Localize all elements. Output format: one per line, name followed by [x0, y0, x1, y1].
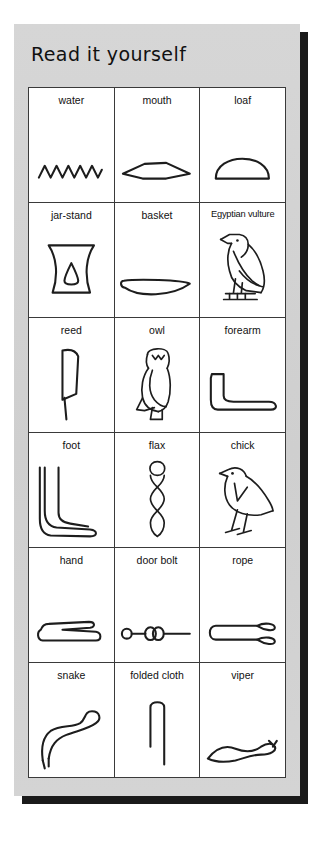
- glyph-cell-owl[interactable]: owl: [114, 318, 200, 433]
- glyph-label: snake: [29, 669, 114, 681]
- glyph-cell-forearm[interactable]: forearm: [200, 318, 286, 433]
- glyph-cell-water[interactable]: water: [29, 88, 115, 203]
- hand-glyph-icon: [29, 568, 114, 660]
- glyph-label: water: [29, 94, 114, 106]
- glyph-cell-folded-cloth[interactable]: folded cloth: [114, 663, 200, 778]
- glyph-label: jar-stand: [29, 209, 114, 221]
- glyph-cell-chick[interactable]: chick: [200, 433, 286, 548]
- glyph-label: flax: [115, 439, 200, 451]
- hieroglyph-table: water mouth: [28, 87, 286, 778]
- glyph-cell-rope[interactable]: rope: [200, 548, 286, 663]
- glyph-label: forearm: [200, 324, 285, 336]
- glyph-cell-hand[interactable]: hand: [29, 548, 115, 663]
- flax-twisted-wick-glyph-icon: [115, 453, 200, 545]
- glyph-label: basket: [115, 209, 200, 221]
- glyph-label: door bolt: [115, 554, 200, 566]
- glyph-label: reed: [29, 324, 114, 336]
- glyph-label: chick: [200, 439, 285, 451]
- table-row: foot flax: [29, 433, 286, 548]
- glyph-cell-snake[interactable]: snake: [29, 663, 115, 778]
- foot-glyph-icon: [29, 453, 114, 545]
- basket-glyph-icon: [115, 223, 200, 315]
- glyph-cell-basket[interactable]: basket: [114, 203, 200, 318]
- owl-glyph-icon: [115, 338, 200, 430]
- glyph-label: foot: [29, 439, 114, 451]
- table-row: reed owl: [29, 318, 286, 433]
- glyph-cell-jar-stand[interactable]: jar-stand: [29, 203, 115, 318]
- egyptian-vulture-glyph-icon: [200, 223, 285, 315]
- glyph-label: rope: [200, 554, 285, 566]
- loaf-semicircle-glyph-icon: [200, 108, 285, 200]
- glyph-cell-viper[interactable]: viper: [200, 663, 286, 778]
- mouth-lens-glyph-icon: [115, 108, 200, 200]
- table-row: snake folded clot: [29, 663, 286, 778]
- glyph-cell-egyptian-vulture[interactable]: Egyptian vulture: [200, 203, 286, 318]
- glyph-label: folded cloth: [115, 669, 200, 681]
- rope-tethering-glyph-icon: [200, 568, 285, 660]
- chick-glyph-icon: [200, 453, 285, 545]
- page-root: Read it yourself water: [0, 0, 321, 851]
- reed-glyph-icon: [29, 338, 114, 430]
- horned-viper-glyph-icon: [200, 683, 285, 775]
- jar-stand-glyph-icon: [29, 223, 114, 315]
- folded-cloth-glyph-icon: [115, 683, 200, 775]
- glyph-label: hand: [29, 554, 114, 566]
- read-it-yourself-card: Read it yourself water: [14, 24, 300, 796]
- glyph-cell-reed[interactable]: reed: [29, 318, 115, 433]
- table-row: hand door bolt: [29, 548, 286, 663]
- snake-glyph-icon: [29, 683, 114, 775]
- table-row: jar-stand basket: [29, 203, 286, 318]
- glyph-label: mouth: [115, 94, 200, 106]
- glyph-label: Egyptian vulture: [200, 209, 285, 219]
- page-title: Read it yourself: [31, 43, 186, 65]
- glyph-label: owl: [115, 324, 200, 336]
- forearm-glyph-icon: [200, 338, 285, 430]
- glyph-cell-mouth[interactable]: mouth: [114, 88, 200, 203]
- door-bolt-glyph-icon: [115, 568, 200, 660]
- water-zigzag-glyph-icon: [29, 108, 114, 200]
- glyph-label: loaf: [200, 94, 285, 106]
- glyph-cell-foot[interactable]: foot: [29, 433, 115, 548]
- glyph-label: viper: [200, 669, 285, 681]
- glyph-cell-door-bolt[interactable]: door bolt: [114, 548, 200, 663]
- glyph-cell-loaf[interactable]: loaf: [200, 88, 286, 203]
- glyph-cell-flax[interactable]: flax: [114, 433, 200, 548]
- table-row: water mouth: [29, 88, 286, 203]
